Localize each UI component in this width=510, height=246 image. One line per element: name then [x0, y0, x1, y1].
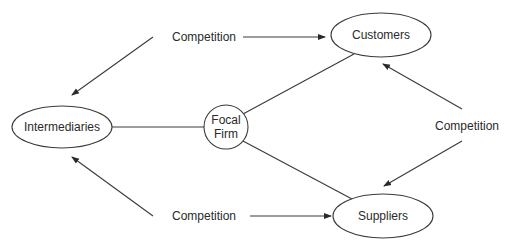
arrow-top-competition-to-intermediaries [72, 37, 153, 95]
node-focal-firm-label-line2: Firm [214, 127, 238, 141]
node-intermediaries: Intermediaries [12, 106, 112, 148]
arrow-right-competition-to-suppliers [384, 141, 462, 186]
competition-label-right: Competition [435, 119, 499, 133]
edge-focal-to-customers [243, 54, 354, 114]
edge-focal-to-suppliers [243, 141, 352, 199]
arrow-bottom-competition-to-intermediaries [72, 157, 153, 216]
node-suppliers: Suppliers [333, 194, 433, 238]
node-customers: Customers [331, 13, 431, 57]
node-customers-label: Customers [352, 28, 410, 42]
node-suppliers-label: Suppliers [358, 209, 408, 223]
node-focal-firm-label-line1: Focal [211, 113, 240, 127]
competition-diagram: Intermediaries Focal Firm Customers Supp… [0, 0, 510, 246]
competition-label-top: Competition [172, 30, 236, 44]
competition-label-bottom: Competition [172, 209, 236, 223]
arrow-right-competition-to-customers [383, 64, 462, 109]
node-focal-firm: Focal Firm [204, 105, 248, 149]
node-intermediaries-label: Intermediaries [24, 120, 100, 134]
